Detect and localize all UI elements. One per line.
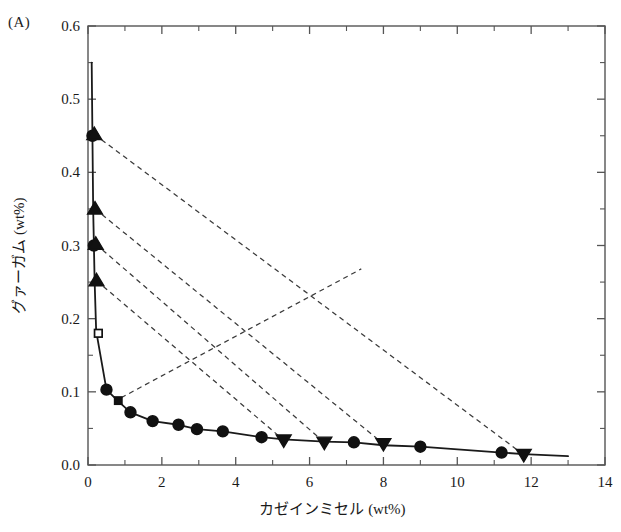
binodal-curve: [92, 63, 568, 457]
casein-rich-phase-down-triangles-marker: [276, 435, 291, 447]
y-tick-label: 0.1: [36, 383, 80, 400]
axis-ticks: [88, 26, 605, 465]
tie-line-4: [96, 281, 283, 441]
binodal-circles-marker: [415, 441, 426, 452]
y-tick-label: 0.2: [36, 310, 80, 327]
y-tick-label: 0.6: [36, 18, 80, 35]
binodal-circles-marker: [125, 407, 136, 418]
binodal-circles-marker: [348, 437, 359, 448]
x-tick-label: 6: [306, 474, 314, 491]
guar-rich-phase-up-triangles-marker: [89, 273, 104, 285]
casein-rich-phase-down-triangles-marker: [516, 450, 531, 462]
critical-point-open-square-marker: [95, 330, 103, 338]
tie-line-2: [95, 209, 383, 444]
binodal-circles-marker: [147, 416, 158, 427]
tie-line-5: [121, 269, 361, 398]
guar-rich-phase-up-triangles-marker: [88, 202, 103, 214]
casein-rich-phase-down-triangles-marker: [317, 437, 332, 449]
binodal-circles-marker: [217, 426, 228, 437]
x-tick-label: 8: [380, 474, 388, 491]
overall-composition-filled-square-marker: [115, 397, 122, 404]
x-tick-label: 14: [598, 474, 613, 491]
x-tick-label: 10: [450, 474, 465, 491]
x-tick-label: 2: [158, 474, 166, 491]
tie-lines-group: [94, 134, 523, 454]
tie-line-1: [94, 134, 523, 454]
phase-diagram-plot: [0, 0, 621, 532]
x-tick-label: 0: [84, 474, 92, 491]
x-axis-title: カゼインミセル (wt%): [22, 497, 621, 518]
binodal-circles-marker: [101, 384, 112, 395]
y-tick-label: 0.4: [36, 164, 80, 181]
binodal-circles-marker: [496, 447, 507, 458]
y-tick-label: 0.0: [36, 457, 80, 474]
binodal-circles-marker: [256, 432, 267, 443]
y-tick-label: 0.5: [36, 91, 80, 108]
binodal-circles-marker: [173, 419, 184, 430]
y-axis-title: グァーガム (wt%): [7, 146, 28, 366]
plot-frame: [88, 26, 605, 465]
binodal-line-group: [92, 63, 568, 457]
x-tick-label: 4: [232, 474, 240, 491]
x-tick-label: 12: [524, 474, 539, 491]
figure-panel-a: (A) 02468101214 0.00.10.20.30.40.50.6 カゼ…: [0, 0, 621, 532]
binodal-circles-marker: [192, 424, 203, 435]
plot-border: [88, 26, 605, 465]
y-tick-label: 0.3: [36, 237, 80, 254]
